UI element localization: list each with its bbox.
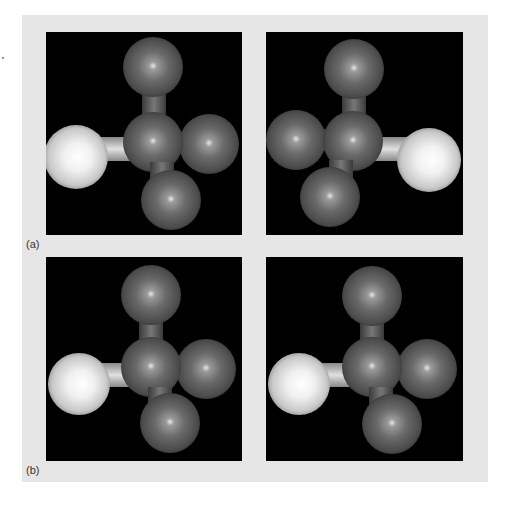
atom-dark [397, 339, 457, 399]
atom-dark [123, 37, 183, 97]
atom-dark [342, 266, 402, 326]
atom-dark [266, 110, 326, 170]
atom-dark [140, 393, 200, 453]
atom-light [397, 128, 461, 192]
panel-label-a: (a) [26, 238, 39, 250]
atom-dark [141, 170, 201, 230]
atom-dark [121, 265, 181, 325]
atom-light [46, 125, 108, 189]
molecule-panel-a-right [266, 32, 463, 235]
molecule-panel-b-left [46, 257, 242, 461]
edge-mark [2, 57, 4, 59]
atom-dark [179, 114, 239, 174]
atom-light [268, 353, 330, 415]
atom-dark [324, 39, 384, 99]
atom-light [48, 353, 110, 415]
molecule-panel-a-left [46, 32, 242, 235]
atom-dark [176, 339, 236, 399]
atom-dark [300, 167, 360, 227]
molecule-panel-b-right [266, 257, 463, 461]
panel-label-b: (b) [26, 464, 39, 476]
atom-dark [362, 394, 422, 454]
